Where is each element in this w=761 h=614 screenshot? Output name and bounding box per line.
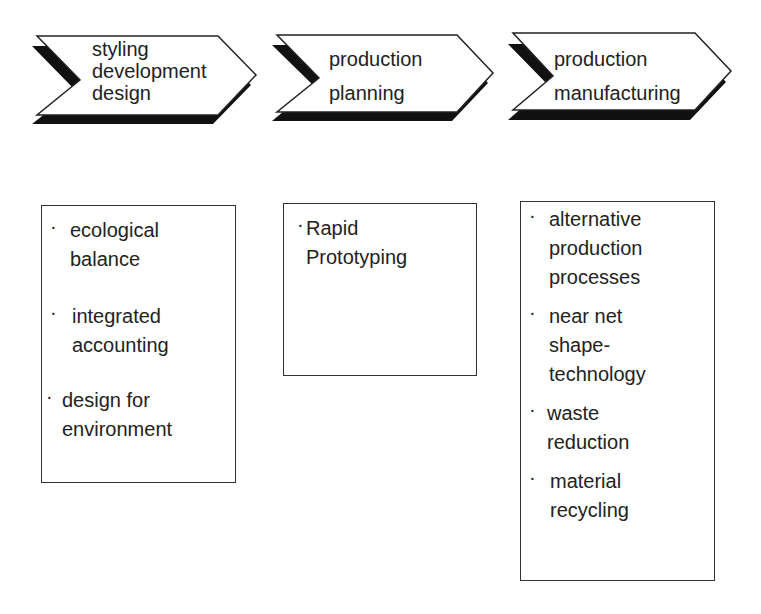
list-item: · ecological balance: [42, 216, 235, 274]
stage-label-line: planning: [329, 76, 422, 110]
bullet-icon: ·: [529, 298, 536, 327]
item-line: waste: [547, 399, 714, 428]
stage-label-line: manufacturing: [554, 76, 681, 110]
item-line: Prototyping: [306, 243, 476, 272]
list-item: · near net shape- technology: [521, 302, 714, 389]
item-line: technology: [549, 360, 714, 389]
item-line: material: [550, 467, 714, 496]
stage-box-2: · Rapid Prototyping: [283, 203, 477, 376]
item-line: near net: [549, 302, 714, 331]
item-line: shape-: [549, 331, 714, 360]
item-line: balance: [70, 245, 235, 274]
item-line: processes: [549, 263, 714, 292]
stage-label-3: production manufacturing: [554, 42, 681, 110]
bullet-icon: ·: [529, 395, 536, 424]
item-line: alternative: [549, 205, 714, 234]
list-item: · integrated accounting: [42, 302, 235, 360]
item-line: Rapid: [306, 214, 476, 243]
bullet-icon: ·: [46, 382, 53, 411]
bullet-icon: ·: [529, 463, 536, 492]
stage-label-1: styling development design: [92, 38, 207, 104]
item-line: design for: [62, 386, 235, 415]
item-line: production: [549, 234, 714, 263]
bullet-icon: ·: [297, 210, 304, 239]
list-item: · waste reduction: [521, 399, 714, 457]
stage-box-1: · ecological balance · integrated accoun…: [41, 205, 236, 483]
stage-label-2: production planning: [329, 42, 422, 110]
item-line: recycling: [550, 496, 714, 525]
stage-label-line: design: [92, 82, 207, 104]
list-item: · Rapid Prototyping: [284, 214, 476, 272]
item-line: integrated: [72, 302, 235, 331]
list-item: · material recycling: [521, 467, 714, 525]
stage-label-line: development: [92, 60, 207, 82]
item-line: accounting: [72, 331, 235, 360]
stage-label-line: production: [329, 42, 422, 76]
item-line: environment: [62, 415, 235, 444]
item-line: ecological: [70, 216, 235, 245]
bullet-icon: ·: [50, 212, 57, 241]
stage-label-line: production: [554, 42, 681, 76]
bullet-icon: ·: [50, 298, 57, 327]
item-line: reduction: [547, 428, 714, 457]
stage-box-3: · alternative production processes · nea…: [520, 201, 715, 581]
list-item: · design for environment: [42, 386, 235, 444]
list-item: · alternative production processes: [521, 205, 714, 292]
stage-label-line: styling: [92, 38, 207, 60]
bullet-icon: ·: [529, 201, 536, 230]
